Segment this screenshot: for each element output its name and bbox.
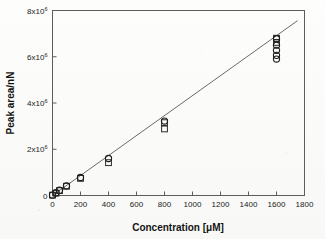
data-point-circle-11 — [273, 56, 279, 62]
x-tick-label-400: 400 — [102, 200, 116, 209]
data-point-circle-6 — [161, 118, 167, 124]
x-tick-label-200: 200 — [74, 200, 88, 209]
x-tick-label-1400: 1400 — [240, 200, 258, 209]
y-axis-title: Peak area/nN — [5, 72, 16, 135]
x-axis-ticks — [53, 192, 305, 196]
figure-container: 020040060080010001200140016001800 02x106… — [0, 0, 325, 239]
scatter-plot: 020040060080010001200140016001800 02x106… — [0, 0, 325, 239]
y-tick-label-0: 0 — [43, 192, 48, 201]
y-tick-label-4: 8x106 — [27, 6, 47, 16]
data-series-squares — [50, 35, 280, 198]
y-tick-label-1: 2x106 — [27, 144, 47, 154]
x-axis-tick-labels: 020040060080010001200140016001800 — [50, 200, 314, 209]
y-axis-tick-labels: 02x1064x1066x1068x106 — [27, 6, 48, 201]
x-axis-title: Concentration [μM] — [132, 222, 224, 233]
x-tick-label-0: 0 — [50, 200, 55, 209]
y-tick-label-3: 6x106 — [27, 52, 47, 62]
y-tick-label-2: 4x106 — [27, 98, 47, 108]
x-tick-label-1200: 1200 — [212, 200, 230, 209]
data-point-circle-5 — [105, 155, 111, 161]
x-tick-label-1600: 1600 — [268, 200, 286, 209]
y-axis-ticks — [53, 11, 57, 196]
data-point-square-6 — [162, 126, 168, 132]
plot-frame — [53, 11, 305, 196]
data-series-circles — [49, 36, 279, 199]
x-tick-label-1000: 1000 — [184, 200, 202, 209]
x-tick-label-1800: 1800 — [296, 200, 314, 209]
regression-line — [53, 21, 298, 196]
x-tick-label-800: 800 — [158, 200, 172, 209]
x-tick-label-600: 600 — [130, 200, 144, 209]
